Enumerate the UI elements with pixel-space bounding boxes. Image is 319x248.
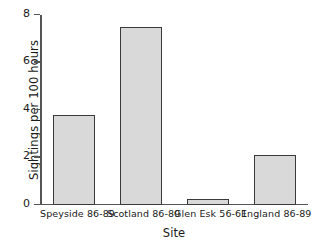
bar-scotland [120,27,162,205]
bar-england [254,155,296,205]
bar-chart: Sightings per 100 hours 0 2 4 6 8 Speysi… [0,0,319,248]
y-tick-label-6: 6 [23,54,30,67]
y-tick-label-8: 8 [23,7,30,20]
x-axis-title: Site [40,226,308,240]
x-tick-label-2: Glen Esk 56-61 [174,208,241,219]
x-tick-labels: Speyside 86-89 Scotland 86-89 Glen Esk 5… [40,208,308,222]
x-tick-label-1: Scotland 86-89 [107,208,174,219]
x-tick-label-3: England 86-89 [241,208,308,219]
bar-speyside [53,115,95,205]
y-tick-label-2: 2 [23,149,30,162]
bar-glen-esk [187,199,229,205]
bar-series [40,15,308,205]
x-tick-label-0: Speyside 86-89 [40,208,107,219]
y-tick-label-0: 0 [23,197,30,210]
plot-area: 0 2 4 6 8 [40,15,308,205]
y-tick-label-4: 4 [23,102,30,115]
